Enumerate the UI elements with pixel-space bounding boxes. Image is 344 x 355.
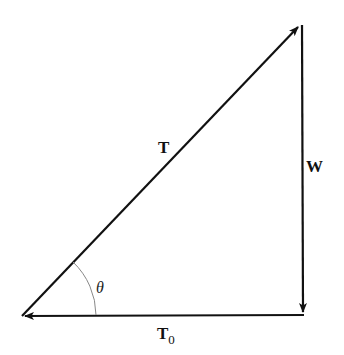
label-theta: θ (96, 279, 104, 296)
label-t0: T0 (157, 324, 175, 347)
label-t: T (158, 138, 170, 157)
vector-t-arrow (22, 27, 298, 316)
vector-t0-arrow (25, 315, 304, 316)
angle-arc (73, 262, 96, 315)
label-t0-subscript: 0 (168, 332, 175, 347)
label-t0-main: T (157, 324, 169, 343)
vector-w-arrow (302, 25, 303, 312)
force-triangle-diagram: T W T0 θ (0, 0, 344, 355)
label-w: W (306, 157, 323, 176)
